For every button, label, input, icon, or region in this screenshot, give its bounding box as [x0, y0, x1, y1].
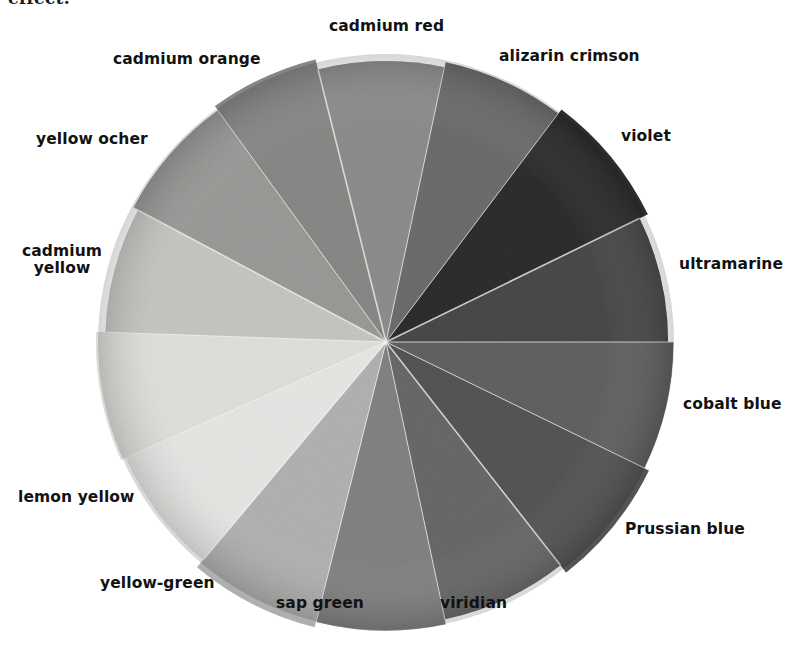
label-viridian: viridian: [440, 595, 507, 612]
label-cadmium-orange: cadmium orange: [113, 51, 261, 68]
label-alizarin-crimson: alizarin crimson: [499, 48, 640, 65]
label-cadmium-yellow-line2: yellow: [34, 259, 91, 277]
label-cadmium-red: cadmium red: [329, 18, 444, 35]
wheel-vignette: [98, 54, 674, 630]
label-yellow-green: yellow-green: [100, 575, 215, 592]
label-violet: violet: [621, 128, 671, 145]
label-lemon-yellow: lemon yellow: [18, 489, 134, 506]
color-wheel-svg: [0, 0, 793, 647]
color-wheel-figure: cadmium red alizarin crimson violet ultr…: [0, 0, 793, 647]
label-cadmium-yellow-line1: cadmium: [22, 242, 102, 260]
label-cobalt-blue: cobalt blue: [683, 396, 782, 413]
label-yellow-ocher: yellow ocher: [36, 131, 148, 148]
label-sap-green: sap green: [276, 595, 364, 612]
label-cadmium-yellow: cadmiumyellow: [22, 243, 102, 278]
label-ultramarine: ultramarine: [679, 256, 783, 273]
label-prussian-blue: Prussian blue: [625, 521, 745, 538]
page-canvas: effect.: [0, 0, 793, 647]
